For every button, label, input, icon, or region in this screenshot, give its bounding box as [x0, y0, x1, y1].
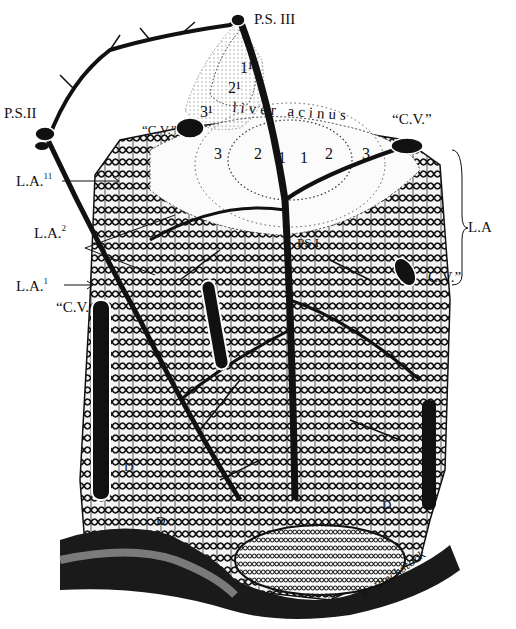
label-text: L.A.	[16, 173, 44, 189]
label-d-left: D	[124, 460, 133, 473]
label-text: L.A.	[34, 225, 62, 241]
brace-la	[452, 150, 468, 285]
label-cv-left: “C.V.	[56, 300, 89, 315]
central-vein-left-column	[92, 300, 110, 500]
zone-label-1-left: 1	[278, 150, 286, 166]
label-d-bottom: D	[156, 514, 165, 527]
central-vein-top-left	[176, 118, 204, 138]
label-portal-space-3: P.S. III	[254, 12, 295, 27]
label-portal-space-2: P.S.II	[4, 106, 37, 121]
portal-space-2	[35, 127, 55, 141]
label-d-right: D	[382, 498, 391, 511]
label-cv-top-left: “C.V.”	[142, 123, 176, 136]
label-cv-right: C.V.”	[428, 270, 461, 285]
zone-label-3-prime: 3¹	[200, 104, 213, 120]
label-superscript: 2	[62, 223, 67, 233]
zone-label-2-left: 2	[254, 146, 262, 162]
zone-label-3-right: 3	[362, 146, 370, 162]
central-vein-right-column	[422, 400, 436, 510]
zone-label-3-left: 3	[214, 146, 222, 162]
label-la-2: L.A.2	[34, 226, 66, 241]
zone-label-1-right: 1	[300, 150, 308, 166]
portal-space-3	[231, 14, 245, 26]
zone-label-2-prime: 2¹	[228, 80, 241, 96]
label-la-11: L.A.11	[16, 174, 52, 189]
label-cv-top-right: “C.V.”	[392, 112, 432, 127]
label-portal-space-1: PS I	[297, 236, 319, 249]
label-superscript: 11	[44, 171, 53, 181]
zone-label-2-right: 2	[325, 146, 333, 162]
label-la-right: L.A	[468, 220, 492, 235]
label-superscript: 1	[44, 276, 49, 286]
label-la-1: L.A.1	[16, 279, 48, 294]
label-text: L.A.	[16, 278, 44, 294]
zone-label-1-prime: 1¹	[240, 60, 253, 76]
central-vein-top-right	[391, 138, 423, 154]
